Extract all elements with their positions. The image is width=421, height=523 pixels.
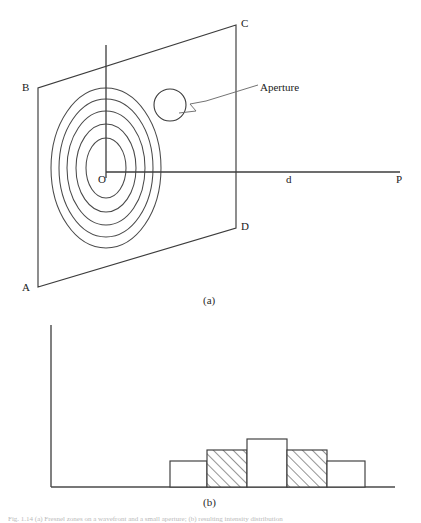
screen-corner-label-d: D bbox=[241, 221, 249, 232]
screen-corner-label-c: C bbox=[241, 18, 248, 29]
aperture-label: Aperture bbox=[260, 82, 299, 93]
panel-tag-b: (b) bbox=[203, 496, 216, 508]
figure-caption: Fig. 1.14 (a) Fresnel zones on a wavefro… bbox=[8, 515, 413, 523]
panel-tag-a: (a) bbox=[203, 294, 215, 306]
bar-2 bbox=[247, 439, 287, 487]
bar-4 bbox=[327, 461, 365, 487]
axis-distance-label: d bbox=[286, 174, 292, 185]
bar-1 bbox=[207, 450, 247, 487]
axis-point-label: P bbox=[396, 174, 402, 185]
chart-bars bbox=[170, 439, 365, 487]
origin-label: O bbox=[98, 174, 106, 185]
screen-corner-label-a: A bbox=[22, 282, 30, 293]
bar-3 bbox=[287, 450, 327, 487]
screen-corner-label-b: B bbox=[22, 82, 29, 93]
bar-0 bbox=[170, 461, 207, 487]
